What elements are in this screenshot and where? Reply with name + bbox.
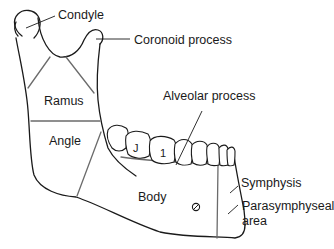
tooth-mark-1: 1 bbox=[160, 147, 166, 159]
tooth-molar-3 bbox=[107, 125, 128, 151]
label-coronoid-process: Coronoid process bbox=[134, 33, 232, 47]
tooth-canine bbox=[207, 143, 221, 165]
teeth bbox=[107, 125, 235, 166]
label-symphysis: Symphysis bbox=[241, 176, 301, 190]
mandible-diagram: J 1 Condyle Coronoid process Ramus Alveo… bbox=[0, 0, 334, 249]
label-body: Body bbox=[138, 190, 167, 204]
label-condyle: Condyle bbox=[58, 8, 104, 22]
mental-foramen-icon bbox=[192, 203, 199, 210]
tooth-premolar-2 bbox=[174, 140, 193, 166]
label-ramus: Ramus bbox=[44, 94, 84, 108]
tooth-incisor-1 bbox=[227, 147, 235, 166]
label-alveolar-process: Alveolar process bbox=[163, 89, 255, 103]
tooth-mark-j: J bbox=[133, 142, 139, 154]
tooth-premolar-1 bbox=[191, 141, 208, 165]
label-parasymphyseal-area: area bbox=[242, 214, 267, 228]
label-parasymphyseal: Parasymphyseal bbox=[242, 199, 334, 213]
label-angle: Angle bbox=[49, 134, 81, 148]
